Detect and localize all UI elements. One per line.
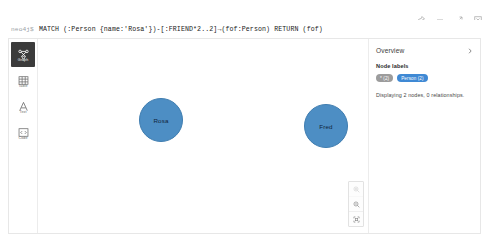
neo4j-browser-result-frame: neo4j$ MATCH (:Person {name:'Rosa'})-[:F… <box>0 0 488 245</box>
query-editor-bar[interactable]: neo4j$ MATCH (:Person {name:'Rosa'})-[:F… <box>0 20 488 38</box>
graph-node-label: Rosa <box>153 117 168 124</box>
sidebar-item-label: Table <box>18 84 27 89</box>
text-icon <box>18 98 29 109</box>
sidebar-item-graph[interactable]: Graph <box>11 42 35 67</box>
zoom-fit-button[interactable] <box>349 212 363 226</box>
sidebar-item-label: Text <box>20 110 27 115</box>
zoom-in-button[interactable] <box>349 182 363 197</box>
minimize-icon[interactable] <box>436 10 444 18</box>
result-status-text: Displaying 2 nodes, 0 relationships. <box>376 91 468 99</box>
overview-title: Overview <box>376 47 404 54</box>
graph-canvas[interactable]: Rosa Fred <box>38 39 368 233</box>
table-icon <box>18 72 29 83</box>
overview-header: Overview <box>376 47 473 54</box>
sidebar-item-table[interactable]: Table <box>11 68 35 93</box>
overview-panel: Overview Node labels * (2) Person (2) Di… <box>368 39 480 233</box>
graph-node[interactable]: Rosa <box>139 98 183 142</box>
graph-node[interactable]: Fred <box>304 104 348 148</box>
node-label-chip-all[interactable]: * (2) <box>376 74 393 82</box>
cypher-query-text[interactable]: MATCH (:Person {name:'Rosa'})-[:FRIEND*2… <box>39 26 323 33</box>
sidebar-item-text[interactable]: Text <box>11 94 35 119</box>
graph-zoom-controls <box>348 181 364 227</box>
frame-title-controls <box>417 9 482 19</box>
sidebar-item-code[interactable]: Code <box>11 120 35 145</box>
graph-icon <box>18 46 29 57</box>
expand-icon[interactable] <box>455 10 463 18</box>
graph-node-label: Fred <box>319 123 333 130</box>
node-label-chip-list: * (2) Person (2) <box>376 74 473 82</box>
result-frame-body: Graph Table Text <box>8 38 481 234</box>
zoom-out-button[interactable] <box>349 197 363 212</box>
node-label-chip-person[interactable]: Person (2) <box>397 74 427 82</box>
sidebar-item-label: Code <box>19 136 28 141</box>
node-labels-heading: Node labels <box>376 63 473 69</box>
pin-icon[interactable] <box>417 10 425 18</box>
sidebar-item-label: Graph <box>18 58 29 63</box>
view-switcher-rail: Graph Table Text <box>9 39 38 233</box>
chevron-right-icon[interactable] <box>467 48 473 54</box>
frame-bottom-strip <box>8 237 481 242</box>
code-icon <box>18 124 29 135</box>
close-icon[interactable] <box>474 10 482 18</box>
editor-prompt: neo4j$ <box>11 26 34 33</box>
